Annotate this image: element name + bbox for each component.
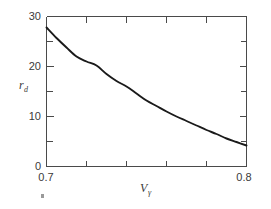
y-axis-title-subscript: d: [24, 85, 29, 94]
stray-scan-mark: [41, 194, 44, 198]
y-axis-minor-ticks: [47, 42, 53, 142]
plot-frame: [47, 17, 247, 167]
x-axis-bottom-ticks: [87, 161, 207, 167]
x-axis-title-subscript: γ: [148, 188, 152, 197]
y-axis-title: r d: [19, 78, 29, 94]
figure-container: 30 20 10 0 0.7 0.8 r d V γ: [0, 0, 271, 209]
y-tick-label-30: 30: [29, 10, 41, 22]
y-axis-right-ticks: [240, 42, 247, 142]
chart-svg: 30 20 10 0 0.7 0.8 r d V γ: [0, 0, 271, 209]
x-axis-top-ticks: [87, 17, 207, 23]
y-tick-label-20: 20: [29, 60, 41, 72]
y-tick-label-10: 10: [29, 110, 41, 122]
x-axis-title: V γ: [140, 181, 152, 197]
data-curve: [47, 28, 247, 146]
x-tick-label-min: 0.7: [38, 171, 53, 183]
x-tick-label-max: 0.8: [236, 171, 251, 183]
